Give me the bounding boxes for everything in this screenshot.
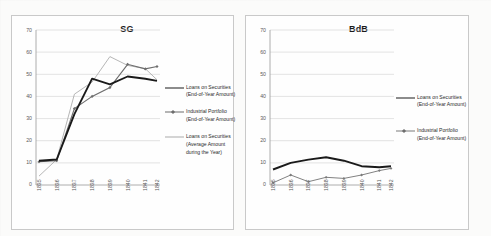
plot-area-bdb (270, 30, 394, 185)
legend-label-bdb-loans-endofyear: Loans on Securities (End-of-Year Amount) (417, 94, 466, 110)
x-tick-sg-1838: 1838 (90, 179, 95, 191)
x-tick-bdb-1836: 1836 (289, 179, 294, 191)
legend-item-sg-industrial-portfolio[interactable]: Industrial Portfolio (End-of-Year Amount… (165, 108, 235, 124)
series-line-bdb-loans-endofyear (273, 157, 391, 169)
y-tick-bdb-50: 50 (252, 72, 266, 77)
y-tick-bdb-10: 10 (252, 160, 266, 165)
legend-swatch-thick-black-icon (165, 84, 184, 92)
plot-svg-sg (36, 30, 160, 185)
x-tick-bdb-1841: 1841 (377, 179, 382, 191)
x-tick-bdb-1842: 1842 (389, 179, 394, 191)
y-tick-sg-0: 0 (18, 182, 32, 187)
legend-diamond-icon (171, 110, 175, 114)
y-tick-bdb-20: 20 (252, 138, 266, 143)
x-tick-sg-1842: 1842 (155, 179, 160, 191)
x-tick-bdb-1839: 1839 (342, 179, 347, 191)
x-tick-bdb-1838: 1838 (324, 179, 329, 191)
chart-panel-sg: SG 70 60 50 40 30 20 10 0 (11, 15, 234, 230)
y-tick-bdb-0: 0 (252, 182, 266, 187)
legend-label-sg-loans-average: Loans on Securities (Average Amount duri… (186, 133, 231, 157)
y-tick-sg-20: 20 (18, 138, 32, 143)
x-tick-sg-1837: 1837 (72, 179, 77, 191)
legend-item-bdb-industrial-portfolio[interactable]: Industrial Portfolio (End-of-Year Amount… (396, 127, 468, 143)
plot-area-sg (36, 30, 160, 185)
x-tick-sg-1839: 1839 (108, 179, 113, 191)
legend-swatch-thick-black-icon (396, 94, 415, 102)
legend-label-line2: (End-of-Year Amount) (186, 116, 235, 122)
gridlines-bdb (270, 30, 394, 163)
y-tick-sg-30: 30 (18, 116, 32, 121)
gridlines-sg (36, 30, 160, 163)
series-line-sg-industrial-portfolio (39, 64, 157, 162)
y-tick-bdb-30: 30 (252, 116, 266, 121)
x-tick-sg-1836: 1836 (55, 179, 60, 191)
legend-sg: Loans on Securities (End-of-Year Amount)… (165, 84, 235, 163)
legend-swatch-gray-marker-icon (396, 127, 415, 135)
x-tick-bdb-1835: 1835 (271, 179, 276, 191)
y-tick-sg-10: 10 (18, 160, 32, 165)
legend-label-line1: Loans on Securities (186, 84, 231, 90)
x-tick-sg-1841: 1841 (143, 179, 148, 191)
legend-label-sg-loans-endofyear: Loans on Securities (End-of-Year Amount) (186, 84, 235, 100)
legend-bdb: Loans on Securities (End-of-Year Amount)… (396, 94, 468, 150)
y-tick-bdb-40: 40 (252, 94, 266, 99)
legend-label-line2: (End-of-Year Amount) (417, 101, 466, 107)
chart-panel-bdb: BdB 70 60 50 40 30 20 10 0 (245, 15, 469, 230)
y-tick-sg-60: 60 (18, 50, 32, 55)
x-tick-sg-1835: 1835 (37, 179, 42, 191)
y-tick-bdb-70: 70 (252, 28, 266, 33)
legend-item-sg-loans-average[interactable]: Loans on Securities (Average Amount duri… (165, 133, 235, 157)
legend-label-line1: Loans on Securities (417, 94, 462, 100)
legend-label-line3: during the Year) (186, 149, 222, 155)
y-tick-sg-70: 70 (18, 28, 32, 33)
legend-label-sg-industrial-portfolio: Industrial Portfolio (End-of-Year Amount… (186, 108, 235, 124)
legend-label-line2: (End-of-Year Amount) (417, 135, 466, 141)
legend-label-line1: Industrial Portfolio (417, 127, 458, 133)
x-tick-sg-1840: 1840 (126, 179, 131, 191)
x-tick-bdb-1840: 1840 (360, 179, 365, 191)
legend-diamond-icon (402, 129, 406, 133)
plot-svg-bdb (270, 30, 394, 185)
legend-swatch-gray-marker-icon (165, 108, 184, 116)
legend-swatch-thin-gray-icon (165, 133, 184, 141)
x-tick-bdb-1837: 1837 (306, 179, 311, 191)
figure-page: SG 70 60 50 40 30 20 10 0 (0, 0, 491, 236)
y-tick-sg-40: 40 (18, 94, 32, 99)
legend-label-line2: (Average Amount (186, 141, 225, 147)
legend-label-line1: Industrial Portfolio (186, 108, 227, 114)
legend-label-line2: (End-of-Year Amount) (186, 91, 235, 97)
legend-label-bdb-industrial-portfolio: Industrial Portfolio (End-of-Year Amount… (417, 127, 466, 143)
y-tick-sg-50: 50 (18, 72, 32, 77)
y-tick-bdb-60: 60 (252, 50, 266, 55)
legend-item-bdb-loans-endofyear[interactable]: Loans on Securities (End-of-Year Amount) (396, 94, 468, 110)
legend-item-sg-loans-endofyear[interactable]: Loans on Securities (End-of-Year Amount) (165, 84, 235, 100)
legend-label-line1: Loans on Securities (186, 133, 231, 139)
